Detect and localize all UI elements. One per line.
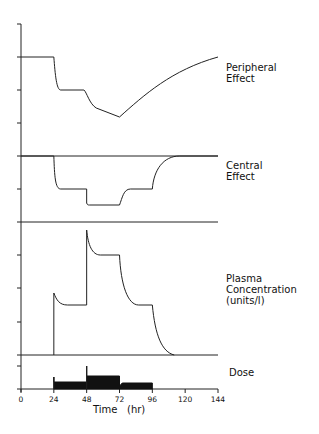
x-tick-label: 24: [49, 395, 59, 404]
label-line: Peripheral: [226, 62, 277, 73]
label-line: Concentration: [226, 284, 297, 295]
central-effect-curve: [21, 156, 218, 205]
peripheral-effect-label: Peripheral Effect: [226, 62, 277, 84]
label-line: Effect: [226, 171, 262, 182]
x-tick-label: 0: [19, 395, 24, 404]
label-line: Plasma: [226, 273, 297, 284]
x-tick-label: 96: [148, 395, 158, 404]
peripheral-effect-curve: [21, 57, 218, 117]
dose-profile: [54, 366, 153, 389]
plasma-concentration-curve: [54, 230, 174, 355]
x-axis-title: Time (hr): [93, 404, 145, 415]
x-tick-label: 72: [115, 395, 125, 404]
label-line: Central: [226, 160, 262, 171]
x-tick-label: 144: [211, 395, 226, 404]
central-effect-label: Central Effect: [226, 160, 262, 182]
x-tick-label: 120: [178, 395, 193, 404]
dose-label: Dose: [229, 367, 254, 378]
x-tick-label: 48: [82, 395, 92, 404]
plasma-concentration-label: Plasma Concentration (units/l): [226, 273, 297, 306]
label-line: (units/l): [226, 295, 297, 306]
label-line: Effect: [226, 73, 277, 84]
